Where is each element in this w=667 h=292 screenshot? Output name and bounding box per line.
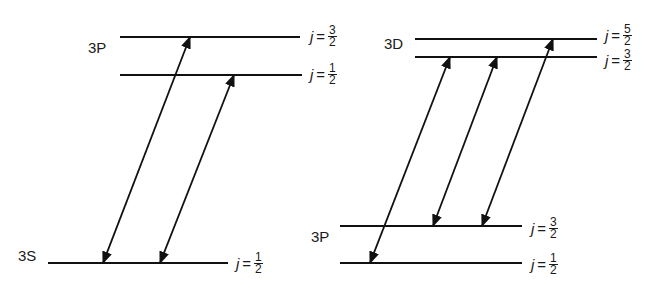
j-quantum-number-label: j=12 (531, 253, 558, 276)
j-quantum-number-label: j=32 (531, 217, 558, 240)
fraction: 32 (328, 25, 337, 48)
fraction: 12 (254, 252, 263, 275)
denominator: 2 (624, 61, 631, 72)
fraction: 32 (549, 217, 558, 240)
denominator: 2 (329, 75, 336, 86)
j-quantum-number-label: j=32 (310, 25, 337, 48)
j-quantum-number-label: j=12 (236, 252, 263, 275)
j-symbol: j (531, 256, 534, 273)
j-symbol: j (605, 27, 608, 44)
equals-sign: = (537, 220, 546, 237)
transition-arrow (160, 75, 234, 263)
term-label: 3S (18, 248, 36, 263)
fraction: 52 (623, 24, 632, 47)
equals-sign: = (537, 256, 546, 273)
term-label: 3D (384, 36, 403, 51)
j-symbol: j (310, 66, 313, 83)
equals-sign: = (316, 28, 325, 45)
equals-sign: = (611, 27, 620, 44)
denominator: 2 (255, 264, 262, 275)
transition-arrow (370, 57, 450, 263)
j-symbol: j (236, 255, 239, 272)
term-label: 3P (88, 40, 106, 55)
fraction: 12 (328, 63, 337, 86)
denominator: 2 (550, 265, 557, 276)
j-symbol: j (310, 28, 313, 45)
j-symbol: j (531, 220, 534, 237)
j-quantum-number-label: j=12 (310, 63, 337, 86)
j-quantum-number-label: j=32 (605, 49, 632, 72)
fraction: 12 (549, 253, 558, 276)
j-quantum-number-label: j=52 (605, 24, 632, 47)
transition-arrow (433, 57, 497, 226)
j-symbol: j (605, 52, 608, 69)
equals-sign: = (242, 255, 251, 272)
transition-arrow (103, 37, 190, 263)
denominator: 2 (550, 229, 557, 240)
fraction: 32 (623, 49, 632, 72)
denominator: 2 (624, 36, 631, 47)
denominator: 2 (329, 37, 336, 48)
equals-sign: = (316, 66, 325, 83)
term-label: 3P (311, 229, 329, 244)
equals-sign: = (611, 52, 620, 69)
